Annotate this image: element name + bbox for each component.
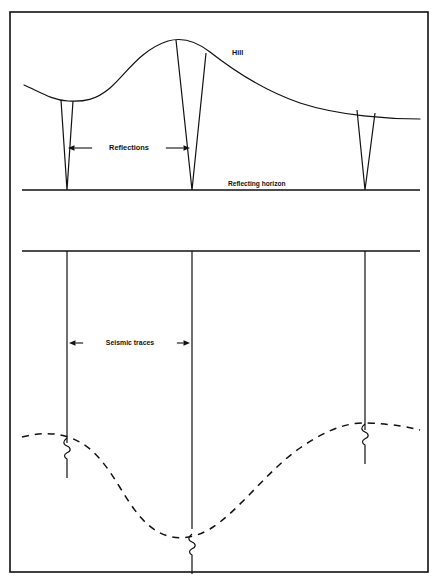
seismic-traces bbox=[67, 251, 365, 529]
wavelet-squiggle-left bbox=[64, 438, 70, 478]
lower-panel: Seismic traces bbox=[22, 251, 420, 574]
reflecting-horizon-label: Reflecting horizon bbox=[228, 180, 286, 188]
hill-label: Hill bbox=[232, 48, 243, 57]
reflection-wavelets bbox=[64, 424, 368, 574]
seismic-traces-label: Seismic traces bbox=[106, 339, 154, 346]
reflection-wedge-right bbox=[357, 110, 375, 190]
reflections-label: Reflections bbox=[109, 143, 149, 152]
dashed-reflection-curve bbox=[22, 423, 420, 538]
wavelet-squiggle-center bbox=[189, 534, 195, 574]
seismic-reflection-diagram: Reflections Hill Reflecting horizon Seis… bbox=[0, 0, 441, 585]
upper-panel: Reflections Hill Reflecting horizon bbox=[22, 39, 420, 190]
arrowhead-right bbox=[184, 340, 191, 346]
figure-canvas: Reflections Hill Reflecting horizon Seis… bbox=[0, 0, 441, 585]
reflection-wedges bbox=[61, 40, 375, 190]
arrowhead-left bbox=[69, 340, 76, 346]
hill-surface-curve bbox=[24, 39, 420, 119]
reflection-wedge-left bbox=[61, 100, 73, 190]
reflection-wedge-center bbox=[176, 40, 206, 190]
arrowhead-left bbox=[68, 145, 75, 151]
